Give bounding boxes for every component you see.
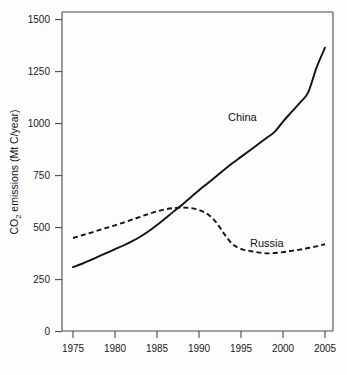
plot-frame <box>62 12 333 331</box>
x-axis-ticks <box>73 331 325 338</box>
y-tick-label-750: 750 <box>33 170 50 181</box>
series-line-russia <box>73 208 325 254</box>
x-tick-label-1990: 1990 <box>188 343 211 354</box>
y-axis-ticks <box>55 20 62 332</box>
x-tick-label-1980: 1980 <box>104 343 127 354</box>
y-tick-label-1250: 1250 <box>28 66 51 77</box>
y-tick-label-500: 500 <box>33 222 50 233</box>
y-axis-title: CO2 emissions (Mt C/year) <box>8 110 23 235</box>
series-line-china <box>73 48 325 267</box>
y-tick-label-1500: 1500 <box>28 14 51 25</box>
x-tick-label-1975: 1975 <box>62 343 85 354</box>
svg-text:CO2 emissions (Mt C/year): CO2 emissions (Mt C/year) <box>8 110 23 235</box>
y-tick-label-1000: 1000 <box>28 118 51 129</box>
y-axis-title-rest: emissions (Mt C/year) <box>8 110 20 215</box>
x-tick-label-2000: 2000 <box>272 343 295 354</box>
series-label-china: China <box>228 111 258 123</box>
chart-figure: 0 250 500 750 1000 1250 1500 1975 1980 1… <box>0 0 347 375</box>
series-label-russia: Russia <box>250 237 285 249</box>
x-tick-label-1985: 1985 <box>146 343 169 354</box>
y-axis-tick-labels: 0 250 500 750 1000 1250 1500 <box>28 14 51 337</box>
y-tick-label-250: 250 <box>33 274 50 285</box>
y-tick-label-0: 0 <box>44 326 50 337</box>
chart-canvas: 0 250 500 750 1000 1250 1500 1975 1980 1… <box>0 0 347 375</box>
x-tick-label-1995: 1995 <box>230 343 253 354</box>
y-axis-title-main: CO <box>8 219 20 235</box>
x-tick-label-2005: 2005 <box>314 343 337 354</box>
data-series-group <box>73 48 325 267</box>
x-axis-tick-labels: 1975 1980 1985 1990 1995 2000 2005 <box>62 343 337 354</box>
